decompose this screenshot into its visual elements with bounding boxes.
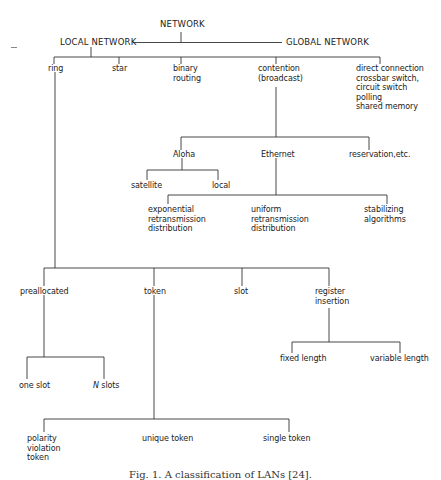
node-variable-length: variable length: [370, 354, 429, 364]
node-unique-token: unique token: [142, 434, 193, 444]
node-polarity-violation-token: polarity violation token: [27, 434, 60, 463]
node-star: star: [112, 64, 127, 74]
node-token: token: [144, 287, 166, 297]
node-local-network: LOCAL NETWORK: [60, 38, 136, 48]
node-preallocated: preallocated: [20, 287, 69, 297]
node-contention: contention (broadcast): [258, 64, 303, 83]
node-slot: slot: [234, 287, 248, 297]
node-network: NETWORK: [160, 20, 205, 30]
node-direct-connection: direct connection crossbar switch, circu…: [356, 64, 424, 112]
node-ethernet: Ethernet: [261, 150, 295, 160]
figure-caption: Fig. 1. A classification of LANs [24].: [0, 469, 441, 480]
node-one-slot: one slot: [19, 381, 50, 391]
node-register-insertion: register insertion: [315, 287, 349, 306]
n-slots-text: slots: [99, 381, 120, 390]
node-exponential-retransmission: exponential retransmission distribution: [148, 205, 206, 234]
node-single-token: single token: [263, 434, 310, 444]
node-aloha: Aloha: [173, 150, 195, 160]
node-uniform-retransmission: uniform retransmission distribution: [251, 205, 309, 234]
node-reservation: reservation,etc.: [349, 150, 410, 160]
node-fixed-length: fixed length: [280, 354, 326, 364]
node-ring: ring: [48, 64, 63, 74]
node-binary-routing: binary routing: [173, 64, 201, 83]
stray-mark: [11, 47, 17, 48]
node-local: local: [212, 181, 230, 191]
node-n-slots: N slots: [93, 381, 119, 391]
node-stabilizing-algorithms: stabilizing algorithms: [364, 205, 406, 224]
node-global-network: GLOBAL NETWORK: [286, 38, 369, 48]
node-satellite: satellite: [131, 181, 162, 191]
